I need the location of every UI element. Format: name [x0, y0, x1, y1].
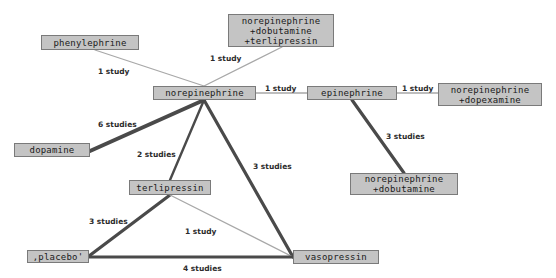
edge-label: 1 study	[265, 84, 296, 93]
edge-label: 1 study	[98, 67, 129, 76]
edge-norepinephrine-vasopressin	[204, 100, 293, 257]
edge-label: 3 studies	[89, 217, 128, 226]
node-ne_dobu: norepinephrine +dobutamine	[350, 173, 458, 195]
node-ne_dobu_terli: norepinephrine +dobutamine +terlipressin	[228, 14, 334, 47]
edge-label: 1 study	[402, 84, 433, 93]
node-vasopressin: vasopressin	[293, 250, 379, 264]
node-phenylephrine: phenylephrine	[41, 35, 139, 50]
node-ne_dopex: norepinephrine +dopexamine	[438, 83, 542, 106]
edge-ne_dobu_terli-norepinephrine	[204, 47, 282, 86]
node-epinephrine: epinephrine	[307, 86, 397, 100]
edge-label: 1 study	[210, 54, 241, 63]
node-terlipressin: terlipressin	[129, 180, 211, 195]
edge-label: 3 studies	[386, 132, 425, 141]
edge-label: 3 studies	[253, 162, 292, 171]
edge-label: 6 studies	[98, 120, 137, 129]
node-placebo: ,placebo'	[27, 250, 89, 263]
network-diagram: 1 study1 study1 study1 study6 studies2 s…	[0, 0, 556, 278]
edge-label: 4 studies	[183, 264, 222, 273]
edge-label: 1 study	[185, 227, 216, 236]
node-dopamine: dopamine	[14, 143, 90, 157]
edge-label: 2 studies	[137, 150, 176, 159]
node-norepinephrine: norepinephrine	[153, 86, 256, 100]
